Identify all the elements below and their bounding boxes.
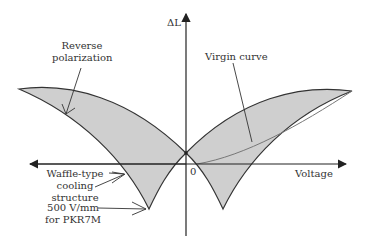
y-axis-label: ΔL xyxy=(167,17,181,29)
origin-label: 0 xyxy=(190,166,196,178)
field-strength-label: 500 V/mm for PKR7M xyxy=(44,202,102,226)
virgin-curve-label: Virgin curve xyxy=(205,51,268,63)
waffle-cooling-label: Waffle-type cooling structure xyxy=(45,168,105,204)
x-axis-label: Voltage xyxy=(295,168,333,180)
reverse-polarization-label: Reverse polarization xyxy=(52,40,112,64)
field-pointer xyxy=(98,202,146,215)
origin-crossing-point xyxy=(184,151,188,155)
butterfly-curve-diagram: ΔL Voltage 0 Reverse polarization Virgin… xyxy=(0,0,370,248)
